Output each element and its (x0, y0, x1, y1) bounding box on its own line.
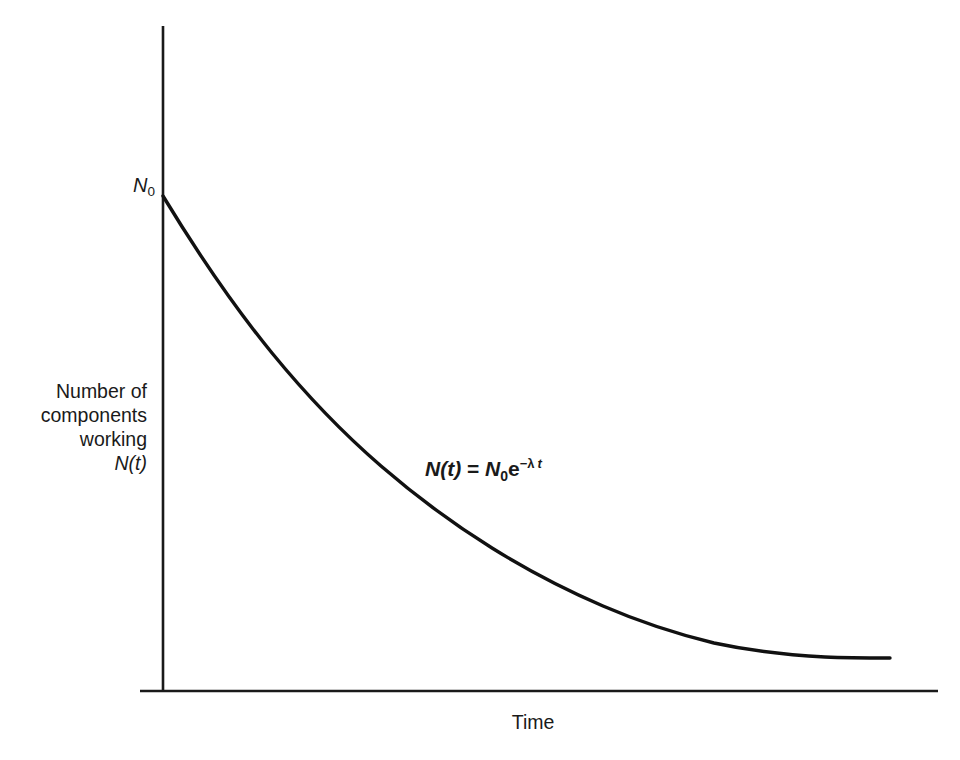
y-axis-label-line-1: Number of (56, 380, 148, 402)
equation-amplitude: N (485, 457, 501, 480)
equation-exponent-lambda: λ (527, 456, 535, 471)
equation-exponent-variable: t (538, 456, 543, 471)
chart-canvas: N0 Number of components working N(t) N(t… (0, 0, 960, 760)
equation-base: e (508, 457, 520, 480)
equation-equals: = (461, 457, 485, 480)
y-axis-label-line-3: working (79, 428, 147, 450)
equation-amplitude-subscript: 0 (500, 468, 508, 484)
n0-symbol: N (133, 174, 148, 196)
equation-lhs-arg: (t) (440, 457, 461, 480)
equation-lhs-var: N (425, 457, 441, 480)
decay-curve (163, 196, 890, 658)
y-axis-label-line-2: components (41, 404, 147, 426)
exponential-decay-figure: N0 Number of components working N(t) N(t… (0, 0, 960, 760)
x-axis-label: Time (512, 711, 555, 733)
n0-axis-label: N0 (133, 174, 155, 199)
curve-equation-annotation: N(t) = N0e−λt (425, 456, 543, 484)
n0-subscript: 0 (147, 184, 155, 199)
y-axis-label-math: N(t) (115, 452, 148, 474)
